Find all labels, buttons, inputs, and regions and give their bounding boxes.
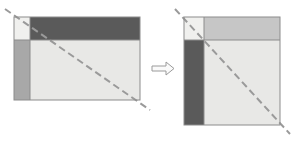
diagram-canvas: Block matrix reshaping diagram A wide bl… xyxy=(0,0,296,141)
arrow-right-icon xyxy=(152,62,174,75)
left-block-top-left xyxy=(14,17,30,40)
right-block-top-right xyxy=(204,17,280,40)
left-matrix-figure xyxy=(5,9,150,110)
right-block-bottom-left xyxy=(184,40,204,125)
transformation-arrow xyxy=(152,62,174,75)
right-matrix-figure xyxy=(175,9,290,134)
left-block-bottom-left xyxy=(14,40,30,100)
left-block-top-right xyxy=(30,17,140,40)
block-matrix-diagram: Block matrix reshaping diagram A wide bl… xyxy=(0,0,296,141)
